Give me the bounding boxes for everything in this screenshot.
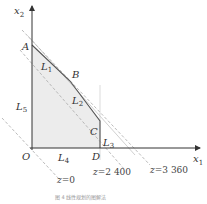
- point-c-label: C: [90, 126, 98, 137]
- constraint-l4-label: L4: [57, 152, 70, 165]
- isoline-z2400-label: z=2 400: [92, 167, 131, 177]
- figure-caption: 图 4 线性规划的图解法: [55, 194, 106, 201]
- x2-axis-label: x2: [14, 5, 24, 19]
- origin-label: O: [22, 151, 30, 162]
- lp-graphical-diagram: x2 x1 O A B C D L1 L2 L3 L4 L5 z=0 z=2 4…: [0, 0, 207, 204]
- constraint-l5-label: L5: [15, 101, 27, 114]
- isoline-z0-label: z=0: [56, 175, 75, 185]
- point-b-label: B: [71, 69, 79, 80]
- point-a-label: A: [21, 41, 29, 52]
- point-d-label: D: [91, 151, 100, 162]
- x1-axis-label: x1: [193, 153, 203, 167]
- isoline-z3360-label: z=3 360: [149, 165, 188, 175]
